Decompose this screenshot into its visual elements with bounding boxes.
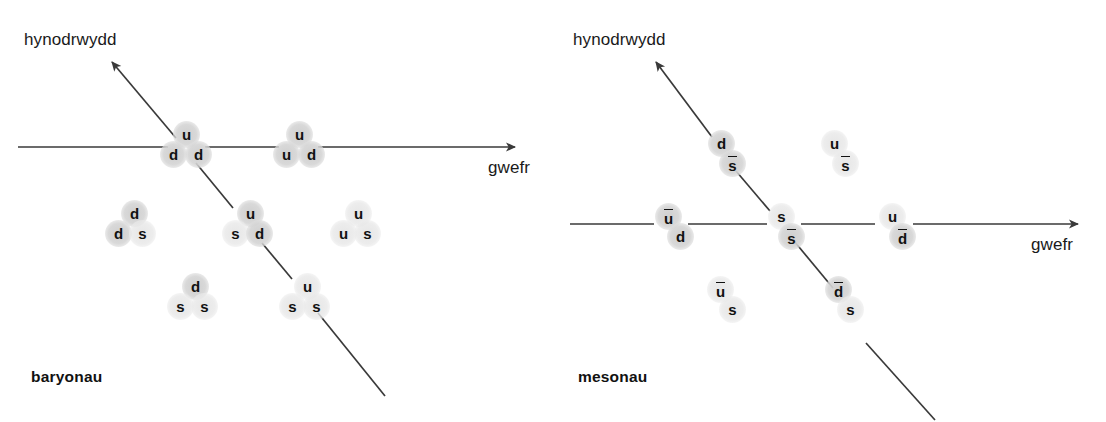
- quark-glyph: u: [664, 209, 673, 226]
- quark-glyph: s: [288, 299, 296, 314]
- quark-glyph: d: [194, 147, 203, 162]
- quark-d-2: d: [105, 220, 132, 247]
- quark-glyph: d: [898, 229, 907, 246]
- quark-glyph: d: [717, 136, 726, 151]
- quark-glyph: s: [841, 156, 849, 173]
- quark-glyph: s: [312, 299, 320, 314]
- quark-glyph: u: [246, 206, 255, 221]
- quark-glyph: d: [169, 147, 178, 162]
- meson-axes-svg: [553, 0, 1106, 422]
- quark-u-2: u: [273, 141, 300, 168]
- meson-panel-caption: mesonau: [578, 368, 647, 386]
- quark-glyph: u: [354, 206, 363, 221]
- meson-strangeness-axis-label: hynodrwydd: [573, 30, 666, 50]
- panel-baryonau: hynodrwydd gwefr baryonau u d d u u d: [0, 0, 553, 422]
- quark-d: d: [298, 141, 325, 168]
- quark-glyph: d: [191, 279, 200, 294]
- quark-glyph: u: [888, 209, 897, 224]
- quark-s-antibar: s: [719, 150, 746, 177]
- quark-glyph: s: [728, 156, 736, 173]
- quark-s: s: [719, 296, 746, 323]
- quark-glyph: d: [676, 229, 685, 244]
- quark-d: d: [667, 223, 694, 250]
- quark-glyph: s: [777, 209, 785, 224]
- quark-d: d: [160, 141, 187, 168]
- baryon-diagonal-line: [196, 163, 385, 396]
- baryon-panel-caption: baryonau: [31, 368, 102, 386]
- quark-s-antibar: s: [832, 150, 859, 177]
- quark-model-figure: hynodrwydd gwefr baryonau u d d u u d: [0, 0, 1106, 422]
- quark-glyph: s: [728, 302, 736, 317]
- quark-glyph: d: [255, 226, 264, 241]
- quark-s: s: [222, 220, 249, 247]
- quark-glyph: d: [834, 282, 843, 299]
- quark-glyph: d: [130, 206, 139, 221]
- quark-s: s: [354, 220, 381, 247]
- quark-glyph: d: [307, 147, 316, 162]
- quark-d-2: d: [185, 141, 212, 168]
- quark-glyph: u: [182, 127, 191, 142]
- baryon-charge-axis-label: gwefr: [488, 158, 530, 178]
- quark-glyph: s: [138, 226, 146, 241]
- quark-s-antibar: s: [778, 223, 805, 250]
- meson-strangeness-axis: [656, 62, 712, 137]
- quark-glyph: s: [363, 226, 371, 241]
- quark-s-2: s: [191, 293, 218, 320]
- quark-s-2: s: [303, 293, 330, 320]
- quark-glyph: s: [200, 299, 208, 314]
- meson-charge-axis-label: gwefr: [1031, 235, 1073, 255]
- quark-glyph: s: [787, 229, 795, 246]
- quark-glyph: u: [830, 136, 839, 151]
- baryon-strangeness-axis-label: hynodrwydd: [24, 30, 117, 50]
- quark-u-2: u: [330, 220, 357, 247]
- quark-glyph: u: [295, 127, 304, 142]
- quark-s: s: [167, 293, 194, 320]
- quark-d: d: [246, 220, 273, 247]
- quark-d-antibar: d: [889, 223, 916, 250]
- quark-glyph: s: [231, 226, 239, 241]
- quark-glyph: s: [176, 299, 184, 314]
- quark-glyph: d: [114, 226, 123, 241]
- quark-glyph: u: [282, 147, 291, 162]
- quark-glyph: u: [716, 282, 725, 299]
- panel-mesonau: hynodrwydd gwefr mesonau d s u s u: [553, 0, 1106, 422]
- quark-s: s: [279, 293, 306, 320]
- quark-glyph: s: [846, 302, 854, 317]
- baryon-strangeness-axis: [112, 62, 176, 138]
- quark-s: s: [129, 220, 156, 247]
- quark-glyph: u: [303, 279, 312, 294]
- baryon-axes-svg: [0, 0, 553, 422]
- quark-s: s: [837, 296, 864, 323]
- quark-glyph: u: [339, 226, 348, 241]
